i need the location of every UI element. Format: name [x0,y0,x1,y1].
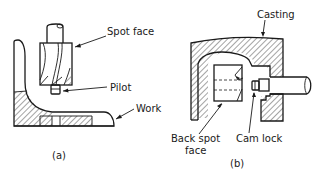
work-section-mid [40,116,52,126]
figure-b: Casting Back spot face Cam lock (b) [171,9,311,169]
leader-casting [263,20,265,34]
caption-b: (b) [230,158,244,169]
tool-pilot [51,85,60,94]
figure-a: Spot face Pilot Work (a) [14,24,162,161]
work-section-right [62,116,92,126]
tool-shank [47,24,63,43]
label-back-spot-face-line2: face [185,145,206,156]
leader-cam-lock [249,93,254,133]
diagram-canvas: Spot face Pilot Work (a) [0,0,319,177]
spot-face-tool [40,24,72,94]
caption-a: (a) [52,150,66,161]
label-back-spot-face-line1: Back spot [171,133,220,144]
label-pilot: Pilot [110,82,131,93]
label-cam-lock: Cam lock [236,133,282,144]
label-work: Work [136,103,162,114]
leader-pilot [63,87,107,91]
shaft [270,77,311,94]
cam-lock [252,79,269,91]
label-spot-face: Spot face [107,26,154,37]
back-spot-face-cutter [214,65,244,101]
work-piece [14,40,114,126]
casting-lower-section [261,94,283,121]
label-casting: Casting [257,9,295,20]
